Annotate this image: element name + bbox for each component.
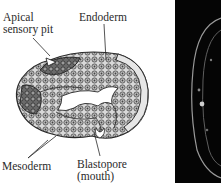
leader-mesoderm-2 <box>28 136 56 158</box>
leader-apical <box>33 38 50 56</box>
micrograph-panel <box>175 0 221 183</box>
micrograph-image <box>175 0 221 183</box>
embryo-drawing <box>0 0 175 188</box>
